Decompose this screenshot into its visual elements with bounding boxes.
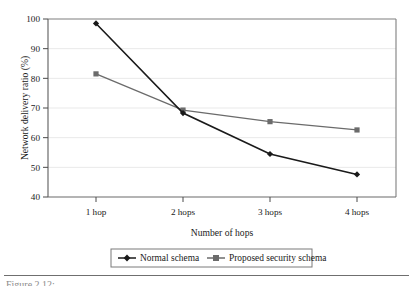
y-tick-label: 40 bbox=[31, 192, 41, 202]
figure-caption-partial: Figure 2.12: bbox=[6, 279, 186, 286]
x-tick-label: 1 hop bbox=[86, 207, 107, 217]
y-tick-label: 100 bbox=[26, 14, 40, 24]
legend-label-normal-schema: Normal schema bbox=[140, 253, 200, 263]
y-tick-label: 80 bbox=[31, 74, 41, 84]
x-tick-label: 4 hops bbox=[345, 207, 370, 217]
y-axis-title: Network delivery ratio (%) bbox=[19, 56, 31, 160]
x-tick-label: 2 hops bbox=[171, 207, 196, 217]
y-axis-ticks bbox=[43, 19, 48, 197]
x-tick-label: 3 hops bbox=[258, 207, 283, 217]
square-marker bbox=[267, 119, 272, 124]
chart-legend: Normal schema Proposed security schema bbox=[111, 249, 327, 267]
legend-label-proposed-security-schema: Proposed security schema bbox=[229, 253, 327, 263]
caption-divider bbox=[4, 275, 409, 276]
y-tick-label: 70 bbox=[31, 103, 41, 113]
network-delivery-ratio-line-chart: 100 90 80 70 60 50 40 Network delivery r… bbox=[0, 0, 416, 286]
square-marker bbox=[354, 127, 359, 132]
square-marker-icon bbox=[213, 255, 219, 261]
x-axis-title: Number of hops bbox=[191, 227, 254, 238]
x-axis-tick-labels: 1 hop 2 hops 3 hops 4 hops bbox=[86, 207, 370, 217]
figure-container: 100 90 80 70 60 50 40 Network delivery r… bbox=[0, 0, 416, 286]
y-tick-label: 50 bbox=[31, 163, 41, 173]
x-axis-ticks bbox=[96, 197, 357, 202]
square-marker bbox=[93, 71, 98, 76]
y-tick-label: 90 bbox=[31, 44, 41, 54]
y-tick-label: 60 bbox=[31, 133, 41, 143]
